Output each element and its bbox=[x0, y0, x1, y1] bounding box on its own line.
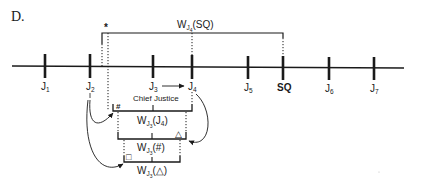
square-marker: □ bbox=[126, 152, 132, 162]
label-j1: J1 bbox=[41, 81, 50, 93]
label-j5: J5 bbox=[244, 82, 253, 94]
chief-justice-caption: Chief Justice bbox=[133, 94, 179, 103]
panel-label: D. bbox=[11, 9, 25, 24]
label-sq: SQ bbox=[277, 82, 292, 93]
top-bracket-label: WJ4(SQ) bbox=[177, 19, 214, 33]
asterisk-marker: * bbox=[104, 22, 108, 33]
bracket-2-label: WJ3(#) bbox=[137, 142, 165, 156]
label-j3: J3 bbox=[149, 81, 158, 93]
wj-choice-diagram: D. J1 J2 J3 J4 J5 SQ J6 J7 Chief Justice… bbox=[0, 0, 432, 188]
bracket-3-label: WJ3(△) bbox=[137, 165, 167, 179]
hash-marker: # bbox=[116, 102, 121, 111]
curve-arrow-j2-to-bracket1 bbox=[90, 100, 113, 123]
triangle-marker: △ bbox=[175, 129, 182, 139]
label-j6: J6 bbox=[325, 83, 334, 95]
timeline-axis bbox=[12, 66, 404, 68]
label-j4: J4 bbox=[188, 81, 197, 93]
label-j2: J2 bbox=[86, 81, 95, 93]
stray-mark bbox=[378, 171, 379, 172]
bracket-wj3-triangle: □ WJ3(△) bbox=[124, 152, 180, 179]
tick-labels: J1 J2 J3 J4 J5 SQ J6 J7 bbox=[41, 81, 379, 95]
label-j7: J7 bbox=[370, 83, 379, 95]
bracket-1-label: WJ3(J4) bbox=[137, 115, 168, 129]
